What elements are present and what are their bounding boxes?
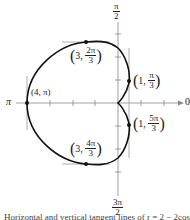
arrow-icon bbox=[178, 101, 184, 106]
label-pi-over-2: π2 bbox=[113, 2, 120, 21]
point-label-4-pi: (4, π) bbox=[31, 88, 51, 97]
point-label-3-2pi3: (3, 2π3) bbox=[70, 46, 102, 65]
label-pi: π bbox=[6, 97, 11, 107]
point-label-1-pi3: (1, π3) bbox=[133, 71, 160, 90]
point-label-3-4pi3: (3, 4π3) bbox=[70, 139, 102, 158]
polar-graph bbox=[0, 0, 190, 220]
figure-caption: Horizontal and vertical tangent lines of… bbox=[4, 212, 190, 220]
point-label-1-5pi3: (1, 5π3) bbox=[133, 114, 165, 133]
label-zero: 0 bbox=[185, 97, 190, 107]
